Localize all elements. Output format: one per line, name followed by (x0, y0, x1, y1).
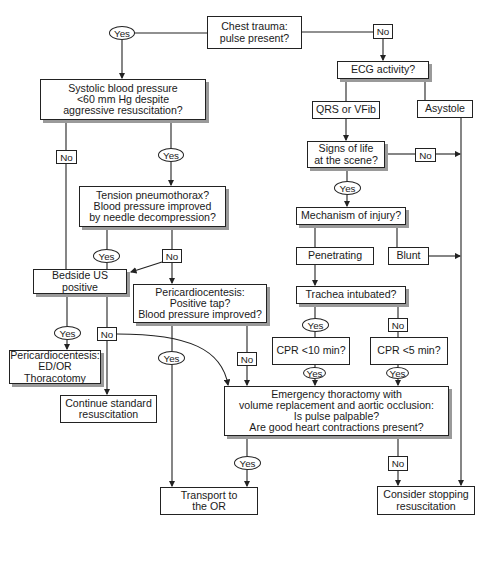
node-text: Chest trauma: pulse present? (220, 21, 290, 43)
node-text: Blunt (396, 250, 420, 261)
node-tension-pneumothorax: Tension pneumothorax? Blood pressure imp… (79, 186, 226, 227)
yes-label: Yes (93, 249, 120, 263)
node-text: Penetrating (308, 250, 362, 261)
node-mechanism-of-injury: Mechanism of injury? (296, 207, 406, 225)
no-label: No (162, 249, 182, 263)
node-penetrating: Penetrating (296, 247, 374, 265)
node-blunt: Blunt (388, 247, 429, 265)
node-text: Asystole (425, 103, 465, 114)
node-cpr-10: CPR <10 min? (272, 337, 350, 365)
node-text: Continue standard resuscitation (65, 398, 152, 420)
node-qrs-vfib: QRS or VFib (312, 101, 380, 119)
no-label: No (415, 148, 436, 162)
no-label: No (97, 327, 117, 341)
no-label: No (56, 150, 77, 164)
node-emergency-thoracotomy: Emergency thoractomy with volume replace… (224, 386, 449, 436)
node-text: Pericardiocentesis: ED/OR Thoracotomy (10, 350, 100, 384)
node-text: Consider stopping resuscitation (383, 489, 468, 511)
node-systolic-bp: Systolic blood pressure <60 mm Hg despit… (40, 79, 206, 120)
yes-label: Yes (109, 26, 135, 40)
node-trachea-intubated: Trachea intubated? (296, 286, 406, 304)
node-consider-stopping: Consider stopping resuscitation (377, 486, 475, 515)
yes-label: Yes (334, 181, 361, 195)
no-label: No (388, 318, 408, 332)
node-cpr-5: CPR <5 min? (370, 337, 448, 365)
no-label: No (373, 24, 393, 39)
node-text: Transport to the OR (181, 490, 238, 512)
node-text: Tension pneumothorax? Blood pressure imp… (89, 190, 216, 224)
no-label: No (388, 456, 408, 471)
node-text: Bedside US positive (52, 270, 108, 292)
yes-label: Yes (158, 148, 184, 162)
node-text: Systolic blood pressure <60 mm Hg despit… (63, 83, 183, 117)
flowchart-canvas: Chest trauma: pulse present? Systolic bl… (0, 0, 489, 571)
node-text: Trachea intubated? (306, 289, 397, 300)
node-text: ECG activity? (351, 64, 415, 75)
no-label: No (237, 352, 257, 366)
node-text: QRS or VFib (316, 104, 376, 115)
yes-label: Yes (158, 351, 185, 365)
yes-label: Yes (302, 318, 329, 332)
node-chest-trauma: Chest trauma: pulse present? (207, 16, 302, 49)
yes-label: Yes (303, 367, 326, 379)
node-text: Signs of life at the scene? (314, 143, 378, 165)
yes-label: Yes (386, 367, 409, 379)
node-text: Emergency thoractomy with volume replace… (239, 389, 434, 434)
node-continue-resuscitation: Continue standard resuscitation (60, 395, 157, 423)
node-bedside-us: Bedside US positive (33, 269, 127, 294)
yes-label: Yes (234, 456, 261, 470)
node-signs-of-life: Signs of life at the scene? (307, 141, 385, 168)
node-pericardiocentesis-thoracotomy: Pericardiocentesis: ED/OR Thoracotomy (9, 350, 101, 384)
node-pericardiocentesis-tap: Pericardiocentesis: Positive tap? Blood … (133, 284, 267, 323)
yes-label: Yes (54, 326, 81, 340)
node-text: CPR <10 min? (276, 345, 345, 356)
node-ecg-activity: ECG activity? (337, 61, 429, 79)
node-asystole: Asystole (417, 100, 473, 118)
node-text: Pericardiocentesis: Positive tap? Blood … (138, 287, 262, 321)
node-text: Mechanism of injury? (301, 210, 401, 221)
node-transport-to-or: Transport to the OR (160, 487, 258, 515)
node-text: CPR <5 min? (377, 345, 440, 356)
